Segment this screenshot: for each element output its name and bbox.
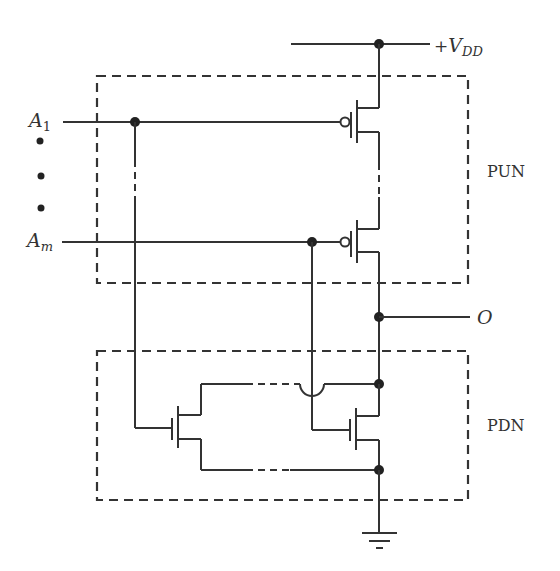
vdd-label: +VDD bbox=[434, 34, 483, 59]
pmos-bubble-icon bbox=[341, 238, 350, 247]
ellipsis-dots-icon bbox=[37, 138, 45, 212]
output-label: O bbox=[477, 306, 493, 328]
pmos-am bbox=[341, 220, 380, 384]
vdd-rail bbox=[291, 39, 430, 108]
input-a1-wire bbox=[63, 117, 340, 428]
nmos-a1 bbox=[172, 384, 201, 470]
input-a1-label: A1 bbox=[27, 109, 51, 134]
input-am-wire bbox=[62, 237, 349, 430]
pmos-bubble-icon bbox=[341, 118, 350, 127]
input-am-label: Am bbox=[25, 229, 53, 254]
cmos-gate-diagram: +VDD A1 Am O PUN PDN bbox=[0, 0, 560, 571]
output-node bbox=[374, 312, 470, 322]
pdn-box bbox=[97, 351, 468, 500]
pun-box bbox=[97, 76, 468, 283]
ground-icon bbox=[362, 470, 397, 548]
nmos-am bbox=[350, 384, 379, 470]
pun-label: PUN bbox=[487, 162, 525, 181]
pdn-top-rail bbox=[201, 379, 384, 396]
pmos-a1 bbox=[341, 100, 380, 143]
pdn-bottom-rail bbox=[201, 465, 384, 475]
pdn-label: PDN bbox=[487, 416, 525, 435]
